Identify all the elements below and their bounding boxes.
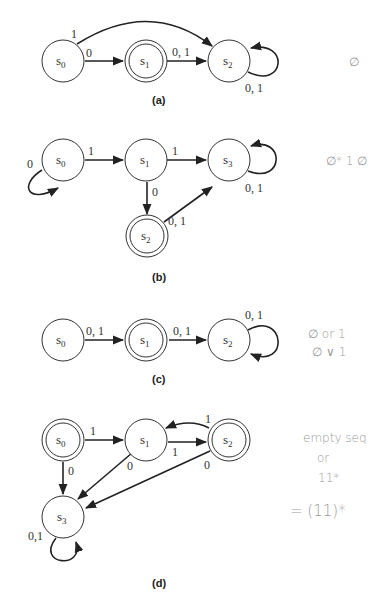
edge-label: 0 — [27, 157, 33, 171]
edge-label: 0, 1 — [245, 81, 263, 95]
edge-label: 0, 1 — [173, 324, 191, 338]
caption-d: (d) — [152, 577, 166, 589]
diagram-d: 1 0 1 1 0 0 0,1 s0 s1 s2 s3 (d) empty se… — [28, 412, 367, 589]
handwritten-note-d-line2: or — [317, 451, 329, 465]
handwritten-note-d-line1: empty seq — [303, 431, 367, 445]
edge-label: 0 — [204, 458, 210, 472]
handwritten-note-d-line4: = (11)* — [290, 502, 346, 520]
edge-label: 1 — [71, 27, 77, 41]
diagram-a: 1 0 0, 1 0, 1 s0 s1 s2 (a) ∅ — [42, 21, 359, 106]
edge-a-s2-loop — [248, 47, 278, 76]
edge-label: 1 — [172, 445, 178, 459]
edge-c-s2-loop — [248, 326, 278, 357]
handwritten-note-c-line1: ∅ or 1 — [308, 327, 346, 341]
handwritten-note-d-line3: 11* — [318, 471, 339, 485]
diagram-b: 0 1 1 0 0, 1 0, 1 s0 s1 s2 s3 (b) ∅* 1 ∅ — [27, 139, 367, 283]
edge-label: 0 — [86, 46, 92, 60]
caption-c: (c) — [152, 373, 166, 385]
diagram-c: 0, 1 0, 1 0, 1 s0 s1 s2 (c) ∅ or 1 ∅ ∨ 1 — [42, 308, 346, 385]
edge-label: 0,1 — [28, 529, 43, 543]
edge-label: 0 — [68, 464, 74, 478]
edge-d-s2-s1 — [166, 423, 209, 428]
edge-label: 1 — [205, 412, 211, 426]
edge-label: 0, 1 — [168, 214, 186, 228]
edge-label: 0 — [127, 459, 133, 473]
handwritten-note-b: ∅* 1 ∅ — [326, 154, 367, 168]
edge-b-s3-loop — [248, 144, 276, 173]
edge-label: 0 — [152, 185, 158, 199]
edge-label: 0, 1 — [86, 324, 104, 338]
edge-label: 0, 1 — [245, 308, 263, 322]
handwritten-note-c-line2: ∅ ∨ 1 — [312, 345, 346, 359]
handwritten-note-a: ∅ — [349, 55, 359, 69]
edge-label: 1 — [90, 424, 96, 438]
edge-label: 1 — [172, 144, 178, 158]
automata-diagram-sheet: 1 0 0, 1 0, 1 s0 s1 s2 (a) ∅ 0 1 1 0 0, … — [0, 0, 387, 605]
edge-label: 0, 1 — [245, 181, 263, 195]
caption-b: (b) — [152, 271, 166, 283]
edge-d-s3-loop — [51, 538, 77, 561]
edge-label: 0, 1 — [172, 45, 190, 59]
caption-a: (a) — [152, 94, 166, 106]
edge-d-s1-s3 — [78, 453, 132, 499]
edge-label: 1 — [88, 144, 94, 158]
